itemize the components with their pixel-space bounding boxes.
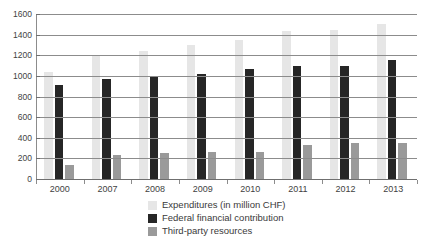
y-axis-tick-label: 600	[2, 113, 32, 122]
y-axis-tick-mark	[36, 117, 40, 118]
y-axis-tick-label: 1000	[2, 72, 32, 81]
bar-2011-series-1	[293, 66, 302, 179]
gridline	[36, 14, 417, 15]
x-axis-tick-label-2011: 2011	[273, 184, 323, 195]
y-axis-tick-mark	[36, 14, 40, 15]
legend-item-third-party-resources: Third-party resources	[148, 225, 286, 237]
x-axis-tick-label-2000: 2000	[35, 184, 85, 195]
legend-swatch-federal-contribution	[148, 214, 157, 223]
y-axis-tick-label: 1400	[2, 31, 32, 40]
legend-label-federal-contribution: Federal financial contribution	[162, 213, 283, 223]
bar-chart-figure: 02004006008001000120014001600 2000200720…	[0, 0, 430, 252]
x-axis-tick-label-2007: 2007	[82, 184, 132, 195]
legend-swatch-expenditures	[148, 201, 157, 210]
x-axis-tick-label-2012: 2012	[321, 184, 371, 195]
gridline	[36, 55, 417, 56]
chart-legend: Expenditures (in million CHF) Federal fi…	[148, 199, 286, 238]
bar-2000-series-0	[44, 72, 53, 179]
y-axis-tick-label: 800	[2, 93, 32, 102]
bar-2012-series-1	[340, 66, 349, 179]
legend-label-expenditures: Expenditures (in million CHF)	[162, 200, 286, 210]
bar-2012-series-2	[351, 143, 360, 179]
bar-2013-series-0	[377, 24, 386, 179]
x-axis-tick-label-2010: 2010	[225, 184, 275, 195]
y-axis-tick-mark	[36, 138, 40, 139]
legend-swatch-third-party-resources	[148, 227, 157, 236]
bar-2000-series-2	[65, 165, 74, 179]
legend-item-expenditures: Expenditures (in million CHF)	[148, 199, 286, 211]
legend-label-third-party-resources: Third-party resources	[162, 226, 252, 236]
bar-2011-series-0	[282, 31, 291, 180]
bar-2008-series-0	[139, 51, 148, 179]
bar-2009-series-2	[208, 152, 217, 179]
y-axis-tick-label: 200	[2, 154, 32, 163]
x-axis-tick-label-2008: 2008	[130, 184, 180, 195]
y-axis-tick-mark	[36, 55, 40, 56]
y-axis-tick-mark	[36, 35, 40, 36]
bar-2008-series-2	[160, 153, 169, 179]
y-axis-tick-label: 1600	[2, 10, 32, 19]
y-axis-tick-label: 400	[2, 134, 32, 143]
bar-2008-series-1	[150, 76, 159, 179]
gridline	[36, 138, 417, 139]
bar-2013-series-2	[398, 143, 407, 179]
bar-2007-series-1	[102, 79, 111, 179]
gridline	[36, 97, 417, 98]
bar-2009-series-1	[197, 74, 206, 179]
gridline	[36, 158, 417, 159]
y-axis-tick-label: 1200	[2, 51, 32, 60]
gridline	[36, 117, 417, 118]
y-axis-tick-mark	[36, 76, 40, 77]
bar-2000-series-1	[55, 85, 64, 179]
x-axis-tick-label-2009: 2009	[178, 184, 228, 195]
x-axis-tick-label-2013: 2013	[368, 184, 418, 195]
y-axis-tick-mark	[36, 158, 40, 159]
bar-2013-series-1	[388, 60, 397, 179]
y-axis-tick-label: 0	[2, 175, 32, 184]
bar-2010-series-1	[245, 69, 254, 179]
gridline	[36, 35, 417, 36]
gridline	[36, 76, 417, 77]
y-axis-tick-mark	[36, 97, 40, 98]
bar-2011-series-2	[303, 145, 312, 179]
bar-2012-series-0	[330, 30, 339, 179]
legend-item-federal-contribution: Federal financial contribution	[148, 212, 286, 224]
bar-2010-series-2	[256, 152, 265, 179]
